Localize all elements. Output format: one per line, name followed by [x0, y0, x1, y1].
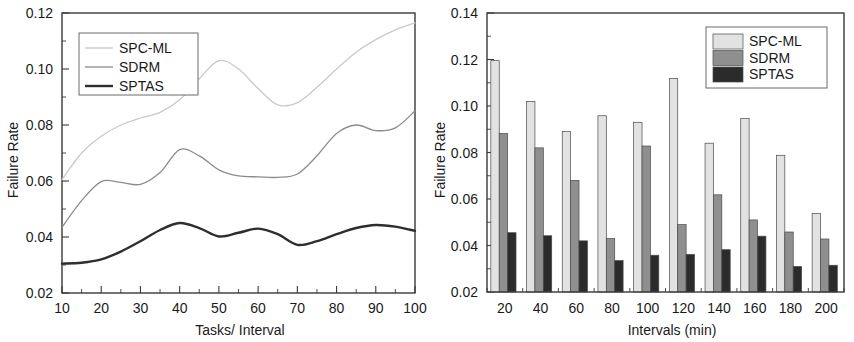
- x-tick-label: 80: [329, 300, 345, 316]
- figure-container: 0.020.040.060.080.100.12 102030405060708…: [0, 0, 854, 342]
- line-chart-panel: 0.020.040.060.080.100.12 102030405060708…: [0, 0, 427, 342]
- bar-sptas-200: [829, 265, 837, 292]
- bar-sdrm-100: [642, 146, 650, 292]
- x-tick-label: 60: [250, 300, 266, 316]
- x-tick-label: 30: [133, 300, 149, 316]
- bar-chart-y-tick-labels: 0.020.040.060.080.100.120.14: [451, 5, 478, 300]
- x-tick-label: 140: [707, 300, 731, 316]
- bar-sptas-20: [508, 233, 516, 292]
- bar-chart-y-axis-title: Failure Rate: [432, 122, 448, 198]
- x-tick-label: 200: [814, 300, 838, 316]
- y-tick-label: 0.08: [451, 145, 478, 161]
- y-tick-label: 0.02: [26, 285, 53, 301]
- line-chart-x-axis-title: Tasks/ Interval: [195, 322, 284, 338]
- x-tick-label: 70: [290, 300, 306, 316]
- bar-spc-ml-140: [705, 143, 713, 292]
- x-tick-label: 180: [779, 300, 803, 316]
- y-tick-label: 0.02: [451, 284, 478, 300]
- bar-sdrm-160: [749, 220, 757, 292]
- bar-chart-panel: 0.020.040.060.080.100.120.14 20406080100…: [427, 0, 854, 342]
- bar-spc-ml-60: [562, 132, 570, 292]
- bar-sdrm-120: [678, 225, 686, 292]
- bar-sptas-140: [722, 250, 730, 292]
- legend-label-sptas: SPTAS: [749, 66, 794, 82]
- bar-spc-ml-120: [669, 79, 677, 292]
- x-tick-label: 40: [533, 300, 549, 316]
- bar-sdrm-180: [785, 232, 793, 292]
- bar-sptas-120: [686, 254, 694, 292]
- bar-chart-x-axis-title: Intervals (min): [628, 322, 717, 338]
- legend-label-spc-ml: SPC-ML: [119, 40, 172, 56]
- bar-sptas-60: [579, 241, 587, 292]
- legend-swatch-sptas: [713, 67, 743, 82]
- x-tick-label: 120: [672, 300, 696, 316]
- series-curve-sptas: [62, 223, 415, 264]
- bar-sdrm-80: [606, 239, 614, 292]
- bar-spc-ml-180: [776, 155, 784, 292]
- x-tick-label: 20: [497, 300, 513, 316]
- legend-label-sptas: SPTAS: [119, 78, 164, 94]
- x-tick-label: 90: [368, 300, 384, 316]
- bar-sptas-160: [758, 236, 766, 292]
- legend-label-sdrm: SDRM: [119, 59, 160, 75]
- bar-chart-svg: 0.020.040.060.080.100.120.14 20406080100…: [427, 0, 854, 342]
- bar-chart-legend: SPC-MLSDRMSPTAS: [706, 27, 827, 88]
- bar-spc-ml-20: [491, 61, 499, 292]
- y-tick-label: 0.14: [451, 5, 478, 21]
- bar-sdrm-20: [499, 133, 507, 292]
- line-chart-x-tick-labels: 102030405060708090100: [54, 300, 427, 316]
- y-tick-label: 0.08: [26, 117, 53, 133]
- x-tick-label: 50: [211, 300, 227, 316]
- y-tick-label: 0.12: [26, 5, 53, 21]
- bar-spc-ml-100: [634, 122, 642, 292]
- x-tick-label: 10: [54, 300, 70, 316]
- bar-sptas-100: [650, 255, 658, 292]
- legend-swatch-spc-ml: [713, 34, 743, 49]
- y-tick-label: 0.10: [451, 98, 478, 114]
- bar-sdrm-60: [571, 180, 579, 292]
- x-tick-label: 60: [568, 300, 584, 316]
- x-tick-label: 100: [636, 300, 660, 316]
- x-tick-label: 20: [93, 300, 109, 316]
- bar-spc-ml-200: [812, 213, 820, 292]
- legend-label-sdrm: SDRM: [749, 50, 790, 66]
- line-chart-y-tick-labels: 0.020.040.060.080.100.12: [26, 5, 53, 301]
- bar-sptas-40: [543, 236, 551, 292]
- bar-sptas-180: [793, 266, 801, 292]
- bar-sdrm-40: [535, 148, 543, 292]
- bar-chart-bars: [491, 61, 837, 292]
- y-tick-label: 0.10: [26, 61, 53, 77]
- x-tick-label: 100: [403, 300, 427, 316]
- line-chart-y-axis-title: Failure Rate: [5, 122, 21, 198]
- legend-swatch-sdrm: [713, 51, 743, 66]
- y-tick-label: 0.06: [26, 173, 53, 189]
- y-tick-label: 0.04: [451, 238, 478, 254]
- x-tick-label: 40: [172, 300, 188, 316]
- bar-spc-ml-160: [741, 118, 749, 292]
- line-chart-svg: 0.020.040.060.080.100.12 102030405060708…: [0, 0, 427, 342]
- bar-spc-ml-40: [527, 101, 535, 292]
- bar-sptas-80: [615, 261, 623, 292]
- x-tick-label: 160: [743, 300, 767, 316]
- legend-label-spc-ml: SPC-ML: [749, 33, 802, 49]
- y-tick-label: 0.12: [451, 52, 478, 68]
- bar-spc-ml-80: [598, 116, 606, 292]
- y-tick-label: 0.06: [451, 191, 478, 207]
- line-chart-legend: SPC-MLSDRMSPTAS: [79, 33, 198, 95]
- bar-sdrm-140: [713, 195, 721, 292]
- bar-sdrm-200: [821, 239, 829, 292]
- bar-chart-x-tick-labels: 20406080100120140160180200: [497, 300, 838, 316]
- x-tick-label: 80: [604, 300, 620, 316]
- y-tick-label: 0.04: [26, 229, 53, 245]
